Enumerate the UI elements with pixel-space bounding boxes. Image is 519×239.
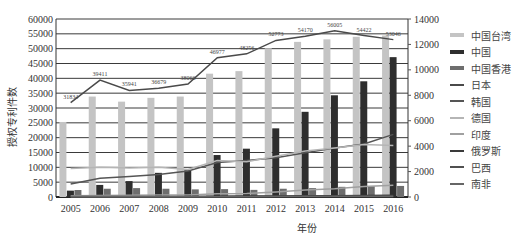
y-left-tick-label: 20000	[28, 132, 53, 143]
bar	[118, 102, 125, 197]
legend-label: 中国台湾	[471, 28, 511, 43]
y-left-tick-label: 25000	[28, 117, 53, 128]
legend-item: 南非	[450, 176, 519, 193]
x-tick-label: 2011	[237, 203, 257, 214]
bar	[360, 81, 367, 197]
legend-label: 韩国	[471, 94, 491, 109]
y-left-tick-label: 35000	[28, 88, 53, 99]
legend-item: 日本	[450, 77, 519, 94]
bar	[382, 36, 389, 197]
x-tick-label: 2010	[207, 203, 227, 214]
y-right-tick-label: 6000	[414, 115, 434, 126]
bar-series	[59, 36, 404, 197]
data-label: 38066	[181, 75, 196, 81]
legend-swatch-icon	[450, 33, 464, 37]
bar	[184, 170, 191, 197]
x-tick-label: 2005	[61, 203, 81, 214]
legend-label: 德国	[471, 110, 491, 125]
legend-swatch-icon	[450, 133, 464, 135]
bar	[235, 71, 242, 197]
y-axis-right: 02000400060008000100001200014000	[408, 14, 439, 203]
x-tick-label: 2015	[354, 203, 374, 214]
y-left-tick-label: 30000	[28, 103, 53, 114]
bar	[353, 37, 360, 197]
chart-canvas: 3183439411359413667938066469774825652773…	[0, 0, 519, 239]
legend-item: 中国	[450, 44, 519, 61]
y-right-tick-label: 12000	[414, 39, 439, 50]
legend-label: 印度	[471, 127, 491, 142]
chart-legend: 中国台湾中国中国香港日本韩国德国印度俄罗斯巴西南非	[450, 27, 519, 192]
x-tick-label: 2012	[266, 203, 286, 214]
x-tick-label: 2013	[295, 203, 315, 214]
y-left-tick-label: 55000	[28, 28, 53, 39]
y-right-tick-label: 10000	[414, 64, 439, 75]
bar	[272, 128, 279, 197]
bar	[59, 122, 66, 197]
legend-label: 日本	[471, 77, 491, 92]
y-right-tick-label: 14000	[414, 14, 439, 25]
x-axis-title: 年份	[297, 222, 317, 234]
legend-label: 中国	[471, 44, 491, 59]
x-tick-label: 2014	[325, 203, 345, 214]
y-left-tick-label: 40000	[28, 73, 53, 84]
legend-item: 中国台湾	[450, 27, 519, 44]
x-axis: 2005200620072008200920102011201220132014…	[61, 203, 404, 214]
legend-item: 印度	[450, 126, 519, 143]
y-left-tick-label: 45000	[28, 58, 53, 69]
data-label: 35941	[122, 81, 137, 87]
bar	[331, 95, 338, 197]
legend-swatch-icon	[450, 183, 464, 185]
data-label: 54170	[298, 27, 313, 33]
bar	[243, 149, 250, 197]
y-axis-left: 0500010000150002000025000300003500040000…	[28, 14, 53, 203]
y-right-tick-label: 0	[414, 192, 419, 203]
x-tick-label: 2016	[383, 203, 403, 214]
legend-item: 巴西	[450, 159, 519, 176]
legend-swatch-icon	[450, 100, 464, 102]
bar	[177, 97, 184, 197]
bar	[397, 186, 404, 197]
y-left-tick-label: 5000	[33, 177, 53, 188]
x-tick-label: 2006	[90, 203, 110, 214]
y-left-tick-label: 10000	[28, 162, 53, 173]
legend-swatch-icon	[450, 66, 464, 70]
bar	[265, 48, 272, 197]
y-right-tick-label: 8000	[414, 90, 434, 101]
y-left-tick-label: 50000	[28, 43, 53, 54]
data-label: 39411	[93, 71, 108, 77]
line	[71, 31, 394, 103]
legend-swatch-icon	[450, 150, 464, 152]
data-label: 52773	[269, 31, 284, 37]
x-tick-label: 2008	[149, 203, 169, 214]
bar	[390, 57, 397, 197]
bar	[294, 42, 301, 197]
legend-swatch-icon	[450, 117, 464, 119]
y-axis-title: 授权专利件数	[6, 87, 18, 147]
bar	[155, 173, 162, 197]
legend-item: 德国	[450, 110, 519, 127]
bar	[147, 98, 154, 197]
legend-label: 俄罗斯	[471, 143, 501, 158]
legend-label: 巴西	[471, 160, 491, 175]
legend-item: 俄罗斯	[450, 143, 519, 160]
bar	[302, 112, 309, 197]
data-label: 31834	[63, 94, 78, 100]
data-label: 36679	[151, 79, 166, 85]
data-label: 56005	[327, 22, 342, 28]
y-right-tick-label: 4000	[414, 141, 434, 152]
legend-swatch-icon	[450, 84, 464, 86]
legend-item: 韩国	[450, 93, 519, 110]
legend-label: 中国香港	[471, 61, 511, 76]
legend-swatch-icon	[450, 50, 464, 54]
legend-swatch-icon	[450, 166, 464, 168]
bar	[89, 97, 96, 197]
data-label: 53046	[386, 31, 401, 37]
y-left-tick-label: 15000	[28, 147, 53, 158]
y-right-tick-label: 2000	[414, 166, 434, 177]
data-label: 48256	[239, 45, 254, 51]
y-left-tick-label: 60000	[28, 14, 53, 25]
bar	[323, 39, 330, 197]
data-label: 54422	[357, 27, 372, 33]
x-tick-label: 2009	[178, 203, 198, 214]
y-left-tick-label: 0	[48, 192, 53, 203]
